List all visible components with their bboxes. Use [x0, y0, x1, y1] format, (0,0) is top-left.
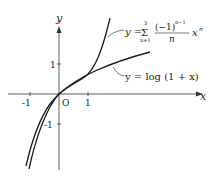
svg-text:3: 3 [144, 20, 147, 26]
log-leader-line [113, 67, 124, 76]
log-label: y = log (1 + x) [124, 71, 199, 82]
svg-text:y =: y = [124, 26, 142, 37]
y-tick-label-neg1: -1 [44, 120, 53, 130]
svg-text:(−1): (−1) [155, 22, 175, 32]
x-tick-label-1: 1 [85, 98, 91, 108]
diagram-canvas: y x O -1 1 1 -1 y = Σ 3 n=1 (−1) n−1 n x… [0, 0, 211, 180]
svg-text:n−1: n−1 [175, 19, 186, 25]
origin-label: O [62, 98, 69, 108]
svg-text:x: x [192, 27, 198, 38]
svg-text:n: n [169, 34, 175, 44]
y-axis-arrow-icon [57, 26, 62, 33]
log-curve [26, 52, 150, 166]
taylor-curve [29, 18, 110, 169]
x-axis-label: x [200, 90, 207, 103]
y-axis-label: y [55, 12, 63, 25]
y-tick-label-1: 1 [50, 60, 56, 70]
svg-text:n=1: n=1 [140, 37, 151, 43]
taylor-leader-line [108, 30, 124, 37]
svg-text:n: n [199, 25, 203, 32]
taylor-label: y = Σ 3 n=1 (−1) n−1 n x n [124, 19, 203, 44]
x-tick-label-neg1: -1 [22, 98, 31, 108]
